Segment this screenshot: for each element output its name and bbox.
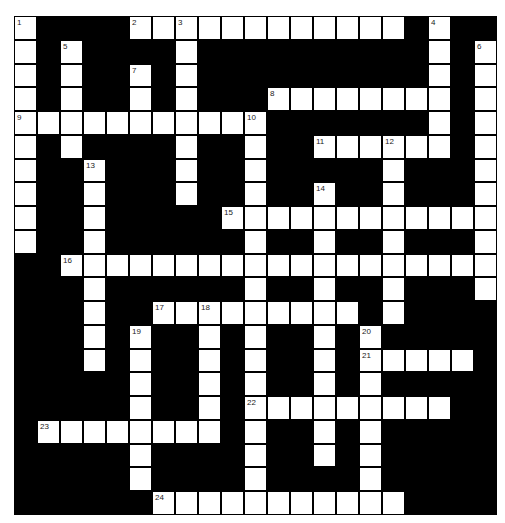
crossword-cell[interactable]	[428, 349, 451, 373]
crossword-cell[interactable]	[175, 491, 198, 515]
crossword-cell[interactable]	[175, 64, 198, 88]
crossword-cell[interactable]	[175, 87, 198, 111]
crossword-cell[interactable]	[129, 444, 152, 468]
crossword-cell[interactable]	[359, 491, 382, 515]
crossword-cell[interactable]	[382, 491, 405, 515]
crossword-cell[interactable]: 3	[175, 16, 198, 40]
crossword-cell[interactable]	[267, 491, 290, 515]
crossword-cell[interactable]	[451, 254, 474, 278]
crossword-cell[interactable]	[14, 40, 37, 64]
crossword-cell[interactable]	[313, 444, 336, 468]
crossword-cell[interactable]	[244, 349, 267, 373]
crossword-cell[interactable]: 20	[359, 325, 382, 349]
crossword-cell[interactable]	[313, 372, 336, 396]
crossword-cell[interactable]	[221, 16, 244, 40]
crossword-cell[interactable]	[14, 64, 37, 88]
crossword-cell[interactable]	[244, 206, 267, 230]
crossword-cell[interactable]	[244, 444, 267, 468]
crossword-cell[interactable]: 17	[152, 301, 175, 325]
crossword-cell[interactable]	[129, 372, 152, 396]
crossword-cell[interactable]	[290, 87, 313, 111]
crossword-cell[interactable]: 7	[129, 64, 152, 88]
crossword-cell[interactable]	[359, 420, 382, 444]
crossword-cell[interactable]	[175, 135, 198, 159]
crossword-cell[interactable]	[382, 159, 405, 183]
crossword-cell[interactable]	[221, 491, 244, 515]
crossword-cell[interactable]	[428, 206, 451, 230]
crossword-cell[interactable]	[313, 349, 336, 373]
crossword-cell[interactable]	[474, 230, 497, 254]
crossword-cell[interactable]	[129, 254, 152, 278]
crossword-cell[interactable]	[37, 111, 60, 135]
crossword-cell[interactable]	[382, 396, 405, 420]
crossword-cell[interactable]	[336, 135, 359, 159]
crossword-cell[interactable]	[267, 16, 290, 40]
crossword-cell[interactable]	[106, 111, 129, 135]
crossword-cell[interactable]	[359, 16, 382, 40]
crossword-cell[interactable]	[83, 277, 106, 301]
crossword-cell[interactable]	[336, 396, 359, 420]
crossword-cell[interactable]	[175, 182, 198, 206]
crossword-cell[interactable]	[14, 206, 37, 230]
crossword-cell[interactable]: 9	[14, 111, 37, 135]
crossword-cell[interactable]: 15	[221, 206, 244, 230]
crossword-cell[interactable]	[313, 491, 336, 515]
crossword-cell[interactable]	[382, 206, 405, 230]
crossword-cell[interactable]	[336, 254, 359, 278]
crossword-cell[interactable]	[474, 277, 497, 301]
crossword-cell[interactable]	[359, 467, 382, 491]
crossword-cell[interactable]	[313, 301, 336, 325]
crossword-cell[interactable]	[313, 420, 336, 444]
crossword-cell[interactable]	[359, 87, 382, 111]
crossword-cell[interactable]	[405, 135, 428, 159]
crossword-cell[interactable]	[474, 159, 497, 183]
crossword-cell[interactable]	[336, 16, 359, 40]
crossword-cell[interactable]	[313, 325, 336, 349]
crossword-cell[interactable]	[382, 182, 405, 206]
crossword-cell[interactable]	[359, 372, 382, 396]
crossword-cell[interactable]	[428, 396, 451, 420]
crossword-cell[interactable]	[267, 396, 290, 420]
crossword-cell[interactable]	[198, 491, 221, 515]
crossword-cell[interactable]	[60, 111, 83, 135]
crossword-cell[interactable]	[129, 467, 152, 491]
crossword-cell[interactable]	[359, 444, 382, 468]
crossword-cell[interactable]: 13	[83, 159, 106, 183]
crossword-cell[interactable]: 10	[244, 111, 267, 135]
crossword-cell[interactable]	[129, 420, 152, 444]
crossword-cell[interactable]: 24	[152, 491, 175, 515]
crossword-cell[interactable]	[83, 254, 106, 278]
crossword-cell[interactable]	[336, 491, 359, 515]
crossword-cell[interactable]	[313, 396, 336, 420]
crossword-cell[interactable]	[198, 325, 221, 349]
crossword-cell[interactable]: 16	[60, 254, 83, 278]
crossword-cell[interactable]	[106, 420, 129, 444]
crossword-cell[interactable]	[175, 254, 198, 278]
crossword-cell[interactable]	[244, 230, 267, 254]
crossword-cell[interactable]	[313, 16, 336, 40]
crossword-cell[interactable]	[428, 40, 451, 64]
crossword-cell[interactable]	[175, 420, 198, 444]
crossword-cell[interactable]	[359, 396, 382, 420]
crossword-cell[interactable]	[382, 16, 405, 40]
crossword-cell[interactable]	[359, 254, 382, 278]
crossword-cell[interactable]	[382, 254, 405, 278]
crossword-cell[interactable]	[106, 254, 129, 278]
crossword-cell[interactable]	[83, 301, 106, 325]
crossword-cell[interactable]	[244, 16, 267, 40]
crossword-cell[interactable]	[60, 87, 83, 111]
crossword-cell[interactable]	[336, 206, 359, 230]
crossword-cell[interactable]	[336, 301, 359, 325]
crossword-cell[interactable]: 18	[198, 301, 221, 325]
crossword-cell[interactable]	[152, 420, 175, 444]
crossword-cell[interactable]	[152, 254, 175, 278]
crossword-cell[interactable]	[129, 396, 152, 420]
crossword-cell[interactable]: 4	[428, 16, 451, 40]
crossword-cell[interactable]	[14, 87, 37, 111]
crossword-cell[interactable]	[428, 254, 451, 278]
crossword-cell[interactable]	[198, 396, 221, 420]
crossword-cell[interactable]	[175, 301, 198, 325]
crossword-cell[interactable]	[405, 254, 428, 278]
crossword-cell[interactable]	[290, 491, 313, 515]
crossword-cell[interactable]	[244, 182, 267, 206]
